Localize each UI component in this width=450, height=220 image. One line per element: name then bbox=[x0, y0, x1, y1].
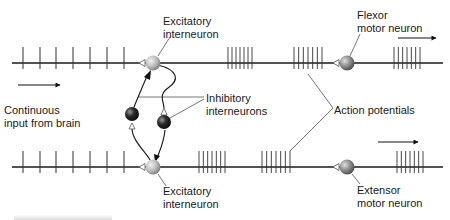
flexor-motor-neuron-label: Flexor motor neuron bbox=[357, 9, 422, 35]
excitatory-top-line1: Excitatory bbox=[163, 15, 219, 28]
bottom-excitatory-interneuron-icon bbox=[146, 160, 161, 175]
flexor-line1: Flexor bbox=[357, 9, 422, 22]
action-potentials-text: Action potentials bbox=[334, 104, 415, 117]
excitatory-bottom-line1: Excitatory bbox=[163, 185, 219, 198]
input-label-line2: input from brain bbox=[4, 117, 80, 130]
extensor-motor-neuron-icon bbox=[340, 160, 355, 175]
leader-inhib-b bbox=[170, 99, 204, 118]
action-potentials-label: Action potentials bbox=[334, 104, 415, 117]
excitatory-top-line2: interneuron bbox=[163, 28, 219, 41]
inhibitory-interneuron-icon bbox=[157, 115, 171, 129]
connection-bottom-excit-to-inhibA bbox=[132, 128, 150, 160]
inhibitory-input-synapse-icon bbox=[161, 108, 167, 115]
excitatory-bottom-line2: interneuron bbox=[163, 198, 219, 211]
flexor-motor-neuron-icon bbox=[340, 56, 355, 71]
leader-action-potentials bbox=[290, 74, 333, 151]
excitatory-synapse-icon bbox=[333, 164, 339, 171]
inhibitory-synapse-icon bbox=[144, 70, 151, 80]
connection-inhibA-to-top-excit bbox=[134, 74, 148, 107]
inhibitory-line1: Inhibitory bbox=[206, 92, 267, 105]
excitatory-synapse-icon bbox=[139, 164, 145, 171]
connection-inhibB-to-bottom-excit bbox=[157, 130, 165, 158]
extensor-motor-neuron-label: Extensor motor neuron bbox=[357, 184, 422, 210]
excitatory-interneuron-top-label: Excitatory interneuron bbox=[163, 15, 219, 41]
connection-top-excit-to-inhib bbox=[158, 65, 175, 108]
excitatory-synapse-icon bbox=[333, 60, 339, 67]
flexor-line2: motor neuron bbox=[357, 22, 422, 35]
excitatory-interneuron-bottom-label: Excitatory interneuron bbox=[163, 185, 219, 211]
inhibitory-line2: interneurons bbox=[206, 105, 267, 118]
clipped-caption-remnant bbox=[14, 215, 112, 220]
inhibitory-interneuron-icon bbox=[125, 107, 139, 121]
input-label-line1: Continuous bbox=[4, 104, 80, 117]
extensor-line2: motor neuron bbox=[357, 197, 422, 210]
inhibitory-input-synapse-icon bbox=[129, 123, 135, 129]
excitatory-synapse-icon bbox=[139, 60, 145, 67]
leader-flexor bbox=[350, 34, 360, 56]
leader-extensor bbox=[352, 174, 360, 184]
inhibitory-interneurons-label: Inhibitory interneurons bbox=[206, 92, 267, 118]
top-excitatory-interneuron-icon bbox=[146, 56, 161, 71]
input-label: Continuous input from brain bbox=[4, 104, 80, 130]
extensor-line1: Extensor bbox=[357, 184, 422, 197]
